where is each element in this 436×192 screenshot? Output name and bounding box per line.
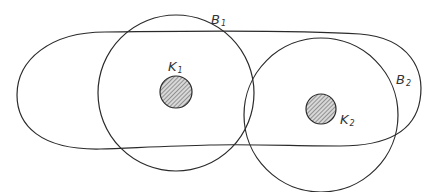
obstacle-k2 bbox=[306, 94, 336, 124]
obstacle-k1 bbox=[160, 76, 192, 108]
label-b2: B2 bbox=[396, 72, 411, 88]
diagram-canvas: B1 K1 K2 B2 bbox=[0, 0, 436, 192]
label-k2: K2 bbox=[340, 112, 355, 128]
label-b1: B1 bbox=[211, 12, 226, 28]
label-k1: K1 bbox=[168, 59, 183, 75]
